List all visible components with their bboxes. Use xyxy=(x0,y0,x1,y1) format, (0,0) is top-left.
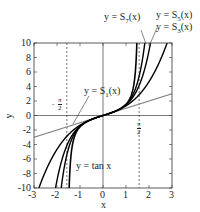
x-tick-label: 1 xyxy=(123,190,128,200)
y-tick-label: 8 xyxy=(26,53,31,63)
label-tan: y = tan x xyxy=(76,161,111,171)
x-tick-label: -3 xyxy=(28,190,36,200)
y-tick-label: -8 xyxy=(23,169,31,179)
x-tick-label: -2 xyxy=(51,190,59,200)
y-tick-label: 4 xyxy=(26,82,31,92)
label-s1: y = S1(x) xyxy=(84,86,120,99)
y-tick-label: -6 xyxy=(23,154,31,164)
x-tick-label: -1 xyxy=(74,190,82,200)
label-leader xyxy=(73,96,89,124)
label-neg-half-pi: - π 2 xyxy=(58,97,62,112)
label-s3: y = S3(x) xyxy=(156,22,192,35)
y-axis-label: y xyxy=(4,114,14,119)
label-half-pi: π 2 xyxy=(137,121,141,136)
x-tick-label: 3 xyxy=(169,190,174,200)
label-s7: y = S7(x) xyxy=(104,12,140,25)
y-tick-label: 2 xyxy=(26,96,31,106)
y-tick-label: 0 xyxy=(26,111,31,121)
y-tick-label: 6 xyxy=(26,67,31,77)
y-tick-label: 10 xyxy=(21,38,31,48)
x-axis-label: x xyxy=(101,200,106,210)
label-leader xyxy=(141,30,146,44)
y-tick-label: -4 xyxy=(23,140,31,150)
y-tick-label: -2 xyxy=(23,125,31,135)
x-tick-label: 2 xyxy=(146,190,151,200)
